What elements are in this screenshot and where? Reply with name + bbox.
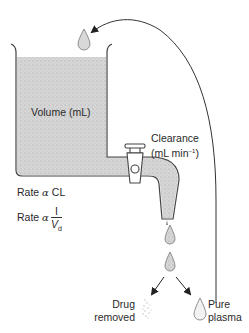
tap-valve-icon xyxy=(125,144,145,183)
drug-drop-icon xyxy=(165,252,175,271)
drug-drop-icon xyxy=(165,225,175,244)
pure-plasma-drop-icon xyxy=(194,298,206,320)
volume-label: Volume (mL) xyxy=(31,106,91,119)
pure-plasma-label: Pure plasma xyxy=(208,298,242,324)
clearance-diagram xyxy=(0,0,249,333)
plasma-drop-icon xyxy=(78,29,90,50)
rate-vd-fraction: I Vd xyxy=(51,205,62,235)
spout-drip-icon xyxy=(166,220,168,225)
arrow-to-pure-plasma xyxy=(176,277,190,294)
arrow-to-drug-removed xyxy=(152,277,164,294)
clearance-units: (mL min−1) xyxy=(151,145,199,160)
clearance-label: Clearance (mL min−1) xyxy=(151,132,199,160)
drug-removed-label: Drug removed xyxy=(93,298,135,324)
drug-spray-icon xyxy=(142,299,151,318)
rate-vd-label: Rate α xyxy=(17,211,49,224)
clearance-title: Clearance xyxy=(151,132,199,145)
rate-cl-label: Rate α CL xyxy=(17,186,65,199)
